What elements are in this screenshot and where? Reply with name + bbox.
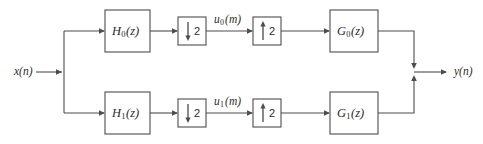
summing-junction-bottom-arrow-head bbox=[411, 75, 417, 81]
wire-g0-to-summing-junction bbox=[378, 31, 414, 64]
block-upsampler-0[interactable] bbox=[253, 17, 281, 45]
input-wire-group bbox=[36, 31, 64, 113]
filter-bank-diagram: x(n) y(n) H0(z) G0(z) H1(z) G1(z) 2 2 2 … bbox=[0, 0, 483, 144]
downsampler-0-factor: 2 bbox=[194, 26, 200, 37]
signal-u0-label: u0(m) bbox=[214, 14, 241, 27]
block-g0-label: G0(z) bbox=[337, 25, 364, 39]
summing-junction-top-arrow-head bbox=[411, 63, 417, 69]
block-downsampler-0[interactable] bbox=[178, 17, 206, 45]
g1-input-arrow-head bbox=[324, 110, 330, 116]
input-arrow-head bbox=[56, 69, 62, 75]
up1-input-arrow-head bbox=[247, 110, 253, 116]
up0-input-arrow-head bbox=[247, 28, 253, 34]
block-h1-label: H1(z) bbox=[112, 107, 139, 121]
g0-input-arrow-head bbox=[324, 28, 330, 34]
down0-input-arrow-head bbox=[172, 28, 178, 34]
downsampler-1-factor: 2 bbox=[194, 108, 200, 119]
wire-g1-to-summing-junction bbox=[378, 80, 414, 113]
block-g1-label: G1(z) bbox=[337, 107, 364, 121]
input-signal-label: x(n) bbox=[14, 66, 33, 78]
block-h0-label: H0(z) bbox=[112, 25, 139, 39]
h0-input-arrow-head bbox=[99, 28, 105, 34]
h1-input-arrow-head bbox=[99, 110, 105, 116]
block-downsampler-1[interactable] bbox=[178, 99, 206, 127]
diagram-canvas bbox=[0, 0, 483, 144]
signal-u1-label: u1(m) bbox=[214, 96, 241, 109]
upsampler-1-factor: 2 bbox=[269, 108, 275, 119]
block-upsampler-1[interactable] bbox=[253, 99, 281, 127]
upsampler-0-factor: 2 bbox=[269, 26, 275, 37]
output-arrow-head bbox=[441, 69, 447, 75]
output-signal-label: y(n) bbox=[454, 66, 473, 78]
down1-input-arrow-head bbox=[172, 110, 178, 116]
output-wire-group bbox=[414, 69, 447, 75]
